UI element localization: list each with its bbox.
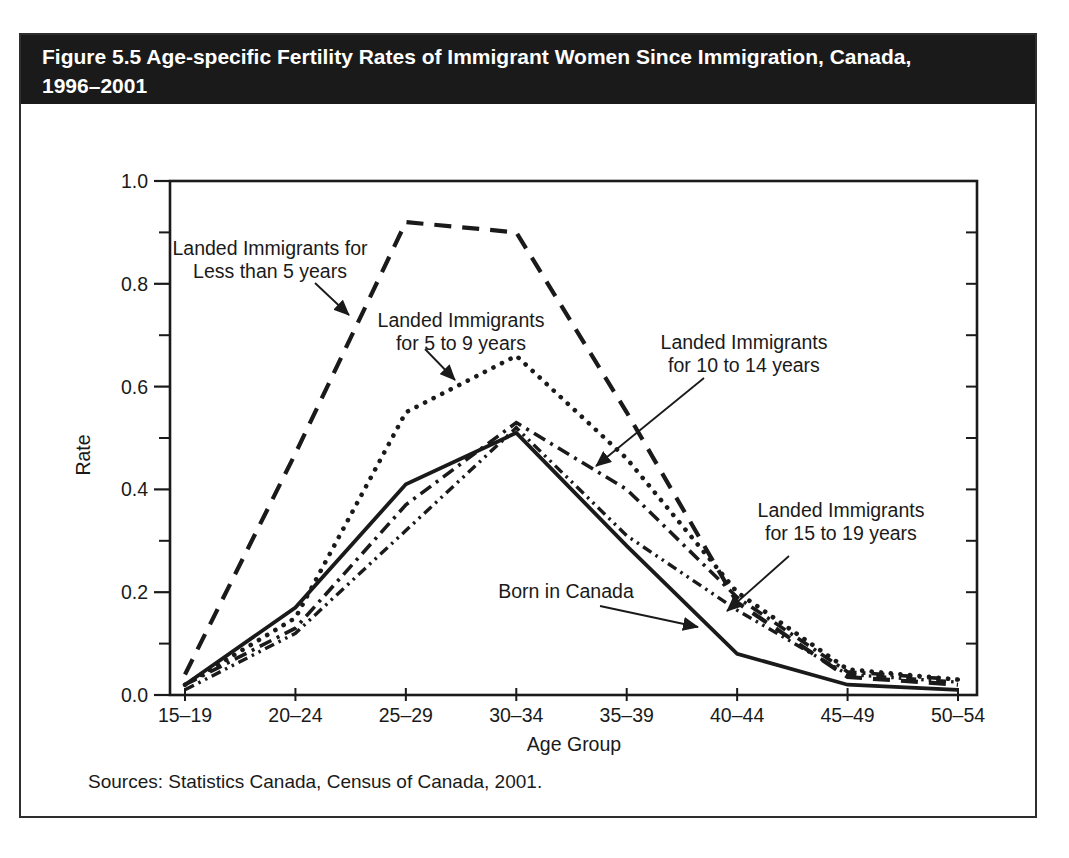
- annotation-label-y10to14: Landed Immigrants: [661, 331, 828, 353]
- annotation-label-lt5: Landed Immigrants for: [172, 237, 368, 259]
- annotation-label-y10to14: for 10 to 14 years: [668, 354, 820, 376]
- annotation-arrow-born: [600, 606, 698, 627]
- series-line-y15to19: [185, 428, 958, 690]
- annotation-label-y15to19: Landed Immigrants: [758, 499, 925, 521]
- y-axis-tick-label: 0.2: [121, 581, 148, 603]
- series-line-lt5: [185, 222, 958, 685]
- x-axis-tick-label: 50–54: [931, 704, 985, 726]
- annotation-label-y5to9: Landed Immigrants: [378, 309, 545, 331]
- x-axis-tick-label: 30–34: [489, 704, 543, 726]
- x-axis-tick-label: 45–49: [820, 704, 874, 726]
- annotation-label-lt5: Less than 5 years: [193, 260, 347, 282]
- y-axis-tick-label: 1.0: [121, 170, 148, 192]
- y-axis-tick-label: 0.0: [121, 684, 148, 706]
- annotation-label-y15to19: for 15 to 19 years: [765, 522, 917, 544]
- x-axis-tick-label: 25–29: [379, 704, 433, 726]
- fertility-line-chart: 0.00.20.40.60.81.015–1920–2425–2930–3435…: [21, 104, 1035, 816]
- figure-frame: Figure 5.5 Age-specific Fertility Rates …: [19, 33, 1037, 818]
- series-line-born: [185, 433, 958, 690]
- source-note: Sources: Statistics Canada, Census of Ca…: [88, 771, 542, 792]
- x-axis-title: Age Group: [527, 733, 621, 755]
- figure-title-line1: Figure 5.5 Age-specific Fertility Rates …: [42, 42, 1035, 71]
- annotation-label-y5to9: for 5 to 9 years: [396, 332, 526, 354]
- series-line-y10to14: [185, 423, 958, 685]
- y-axis-title: Rate: [72, 434, 94, 475]
- x-axis-tick-label: 15–19: [158, 704, 212, 726]
- y-axis-tick-label: 0.8: [121, 273, 148, 295]
- x-axis-tick-label: 40–44: [710, 704, 764, 726]
- annotation-arrow-lt5: [315, 283, 349, 315]
- figure-title-line2: 1996–2001: [42, 71, 1035, 100]
- y-axis-tick-label: 0.6: [121, 376, 148, 398]
- y-axis-tick-label: 0.4: [121, 478, 148, 500]
- figure-title-banner: Figure 5.5 Age-specific Fertility Rates …: [21, 35, 1035, 104]
- x-axis-tick-label: 35–39: [600, 704, 654, 726]
- annotation-label-born: Born in Canada: [498, 580, 634, 602]
- x-axis-tick-label: 20–24: [268, 704, 322, 726]
- annotation-arrow-y15to19: [727, 556, 789, 611]
